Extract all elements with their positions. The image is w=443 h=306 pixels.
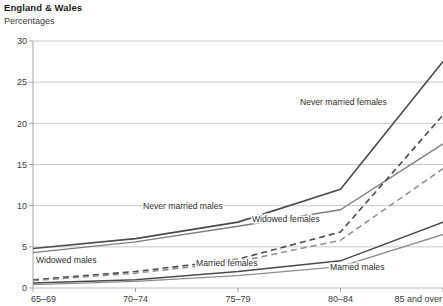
series-label-group: Widowed femalesWidowed females xyxy=(252,214,320,224)
series-label: Never married females xyxy=(300,97,387,107)
series-line-never-married-females xyxy=(33,62,443,249)
series-label: Married males xyxy=(330,262,384,272)
series-label-group: Never married malesNever married males xyxy=(143,201,223,211)
chart-container: England & Wales Percentages 302520151050… xyxy=(0,0,443,306)
series-label-group: Widowed malesWidowed males xyxy=(36,255,97,265)
series-label-group: Married femalesMarried females xyxy=(196,258,258,268)
x-axis-label: 70–74 xyxy=(123,294,148,304)
series-label: Married females xyxy=(196,258,258,268)
x-axis-label: 75–79 xyxy=(225,294,250,304)
y-axis-label: 25 xyxy=(17,77,27,87)
series-label-group: Married malesMarried males xyxy=(330,262,384,272)
x-axis-label: 80–84 xyxy=(328,294,353,304)
series-label-group: Never married femalesNever married femal… xyxy=(300,97,387,107)
y-axis-label: 10 xyxy=(17,201,27,211)
series-label: Widowed males xyxy=(36,255,97,265)
series-line-never-married-males xyxy=(33,144,443,253)
y-axis-label: 0 xyxy=(22,283,27,293)
series-label: Never married males xyxy=(143,201,223,211)
y-axis-label: 15 xyxy=(17,160,27,170)
x-axis-label: 85 and over xyxy=(394,294,442,304)
y-axis-label: 30 xyxy=(17,36,27,46)
series-label: Widowed females xyxy=(252,214,320,224)
y-axis-label: 20 xyxy=(17,119,27,129)
y-axis-label: 5 xyxy=(22,242,27,252)
series-line-married-males xyxy=(33,222,443,283)
x-axis-label: 65–69 xyxy=(31,294,56,304)
line-chart-plot: 30252015105065–6970–7475–7980–8485 and o… xyxy=(0,0,443,306)
